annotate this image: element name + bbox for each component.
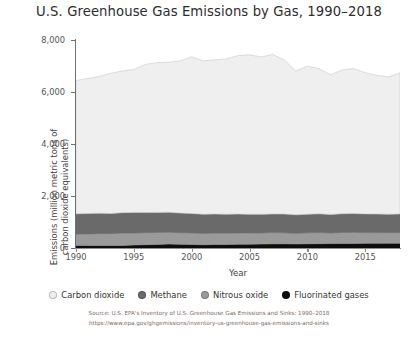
source-note: Source: U.S. EPA's Inventory of U.S. Gre…: [0, 309, 418, 328]
x-tick-label: 2010: [297, 252, 318, 262]
legend-item-methane[interactable]: Methane: [138, 290, 187, 300]
x-tick-label: 1990: [65, 252, 86, 262]
y-tick-label: 4,000: [41, 139, 65, 149]
legend-label: Fluorinated gases: [294, 290, 369, 300]
greenhouse-gas-emissions-chart: U.S. Greenhouse Gas Emissions by Gas, 19…: [0, 0, 418, 342]
legend-swatch-icon: [201, 291, 209, 299]
y-tick-label: 6,000: [41, 87, 65, 97]
x-axis-line: [75, 248, 401, 249]
x-tick-label: 1995: [123, 252, 144, 262]
area-series-methane: [76, 212, 400, 234]
legend-swatch-icon: [138, 291, 146, 299]
legend-item-carbon-dioxide[interactable]: Carbon dioxide: [49, 290, 124, 300]
chart-legend: Carbon dioxideMethaneNitrous oxideFluori…: [0, 290, 418, 300]
legend-item-fluorinated-gases[interactable]: Fluorinated gases: [282, 290, 369, 300]
area-series-nitrous-oxide: [76, 232, 400, 245]
y-tick-label: 8,000: [41, 35, 65, 45]
y-tick-label: 0: [60, 243, 65, 253]
source-url[interactable]: https://www.epa.gov/ghgemissions/invento…: [0, 319, 418, 329]
legend-swatch-icon: [282, 291, 290, 299]
stacked-area-series: [76, 40, 400, 248]
x-axis-title: Year: [76, 268, 400, 278]
source-citation: Source: U.S. EPA's Inventory of U.S. Gre…: [0, 309, 418, 319]
legend-swatch-icon: [49, 291, 57, 299]
legend-label: Carbon dioxide: [61, 290, 124, 300]
legend-label: Methane: [150, 290, 187, 300]
x-tick-label: 2005: [239, 252, 260, 262]
plot-area: [76, 40, 400, 248]
x-tick-label: 2000: [181, 252, 202, 262]
y-tick-label: 2,000: [41, 191, 65, 201]
legend-label: Nitrous oxide: [213, 290, 268, 300]
x-tick-label: 2015: [355, 252, 376, 262]
area-series-carbon-dioxide: [76, 55, 400, 215]
legend-item-nitrous-oxide[interactable]: Nitrous oxide: [201, 290, 268, 300]
